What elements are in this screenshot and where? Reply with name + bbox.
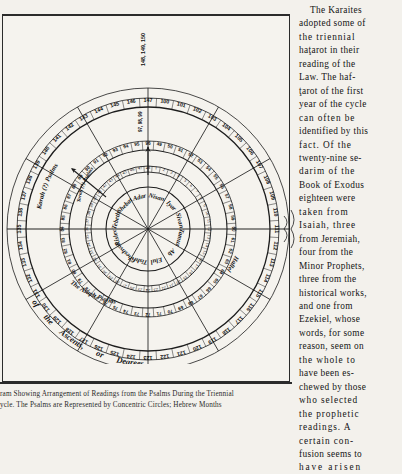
outer-number-112: 112 (272, 241, 279, 250)
article-line: Book of Exodus (299, 179, 402, 192)
outer-number-105: 105 (234, 132, 245, 143)
second-number-80: 80 (70, 268, 77, 275)
article-line: reason, seem on (299, 340, 402, 353)
outer-number-104: 104 (221, 121, 232, 131)
outer-number-117: 117 (234, 315, 244, 325)
second-top-stack: 97, 98, 99 (138, 111, 143, 132)
outer-number-130: 130 (40, 302, 50, 313)
outer-number-106: 106 (245, 145, 255, 156)
second-number-81: 81 (66, 258, 73, 265)
inner-number-38: 38 (86, 210, 92, 216)
second-number-58: 58 (227, 204, 233, 211)
article-line: chewed by those (299, 381, 402, 394)
article-line: three from the (299, 273, 402, 286)
outer-number-108: 108 (263, 174, 272, 185)
article-line: darim of the (299, 165, 402, 178)
article-line: year of the cycle (299, 98, 402, 111)
second-number-69: 69 (177, 305, 184, 312)
article-line: fusion seems to (299, 448, 402, 461)
article-line: certain con- (299, 435, 402, 448)
second-number-75: 75 (112, 305, 119, 312)
second-number-55: 55 (212, 173, 219, 180)
second-number-67: 67 (196, 293, 203, 300)
article-line: twenty-nine se- (299, 152, 402, 165)
second-number-56: 56 (219, 183, 226, 190)
outer-number-116: 116 (245, 302, 255, 313)
article-line: the prophetic (299, 408, 402, 421)
outer-top-stack: 148, 149, 150 (140, 33, 146, 66)
inner-number-15: 15 (201, 250, 208, 257)
outer-number-134: 134 (17, 241, 24, 251)
article-line: Law. The haf- (299, 71, 402, 84)
article-line: Isaiah, three (299, 219, 402, 232)
article-line: who selected (299, 394, 402, 407)
inner-number-31: 31 (96, 263, 103, 270)
outer-number-138: 138 (24, 174, 33, 185)
outer-number-123: 123 (144, 355, 153, 361)
article-line: Ezekiel, whose (299, 313, 402, 326)
month-label-iyar: Iyar (164, 198, 178, 212)
outer-number-111: 111 (274, 225, 280, 233)
article-line: and one from (299, 300, 402, 313)
outer-number-136: 136 (17, 207, 24, 217)
outer-number-118: 118 (221, 326, 232, 336)
article-line: ţarot of the first (299, 85, 402, 98)
outer-number-147: 147 (144, 97, 153, 103)
inner-number-13: 13 (206, 234, 212, 240)
outer-number-144: 144 (93, 105, 104, 114)
second-number-52: 52 (187, 152, 194, 159)
inner-number-11: 11 (206, 219, 212, 224)
inner-number-1: 1 (155, 165, 158, 170)
inner-number-42: 42 (101, 182, 108, 189)
article-line: taken from (299, 206, 402, 219)
article-line: from Jeremiah, (299, 233, 402, 246)
inner-number-26: 26 (129, 285, 135, 291)
article-line: The Karaites (299, 4, 402, 17)
month-label-ab: Ab (166, 247, 178, 259)
inner-number-12: 12 (207, 227, 212, 231)
outer-number-132: 132 (24, 273, 33, 284)
second-number-57: 57 (224, 193, 231, 200)
outer-number-145: 145 (109, 100, 119, 108)
article-line: readings. A (299, 421, 402, 434)
month-label-kislev: Kislev (110, 229, 121, 248)
figure-bottom-rule (0, 382, 292, 384)
outer-number-102: 102 (192, 105, 203, 114)
article-line: haţarot in their (299, 44, 402, 57)
second-number-60: 60 (231, 226, 236, 232)
article-line: can often be (299, 112, 402, 125)
outer-number-126: 126 (93, 344, 104, 353)
second-number-85: 85 (60, 215, 66, 221)
article-line: fact. Of the (299, 139, 402, 152)
article-line: four from the (299, 246, 402, 259)
second-number-83: 83 (60, 237, 66, 243)
outer-number-133: 133 (19, 257, 27, 267)
outer-number-120: 120 (192, 344, 203, 353)
article-line: reading of the (299, 58, 402, 71)
article-line: adopted some of (299, 17, 402, 30)
second-number-84: 84 (60, 226, 65, 232)
outer-number-135: 135 (16, 225, 22, 234)
second-number-92: 92 (102, 151, 109, 158)
article-line: have been es- (299, 367, 402, 380)
inner-number-39: 39 (88, 202, 95, 209)
label-korah-psalms: Korah (?) Psalms (35, 161, 59, 210)
outer-number-110: 110 (272, 207, 279, 216)
outer-number-122: 122 (160, 353, 170, 360)
inner-number-3: 3 (170, 169, 175, 175)
second-number-95: 95 (134, 141, 140, 147)
inner-number-2: 2 (162, 167, 165, 172)
second-number-72: 72 (145, 312, 151, 317)
article-line: words, for some (299, 327, 402, 340)
outer-number-142: 142 (64, 121, 75, 131)
second-number-93: 93 (112, 147, 119, 154)
outer-number-103: 103 (207, 112, 218, 122)
second-number-87: 87 (66, 193, 73, 200)
second-number-64: 64 (218, 268, 225, 275)
outer-number-119: 119 (207, 336, 218, 346)
outer-number-143: 143 (78, 112, 89, 122)
outer-number-131: 131 (31, 288, 41, 299)
caption-line: ycle. The Psalms are Represented by Conc… (0, 400, 296, 411)
outer-number-141: 141 (51, 132, 62, 143)
